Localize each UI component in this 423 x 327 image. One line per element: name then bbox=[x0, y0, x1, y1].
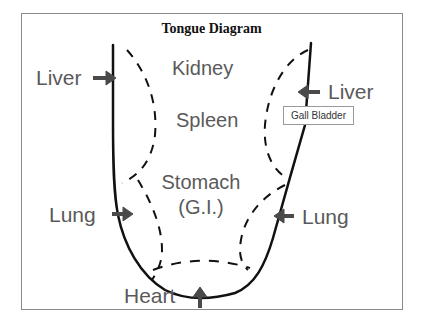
label-lung-left: Lung bbox=[49, 203, 96, 227]
zone-stomach: Stomach bbox=[153, 171, 249, 194]
tongue-outline-graphic bbox=[0, 0, 423, 327]
gall-bladder-callout: Gall Bladder bbox=[283, 106, 354, 125]
lung-left-arrow-icon bbox=[112, 207, 133, 221]
liver-left-zone-boundary bbox=[122, 50, 155, 183]
heart-arrow-icon bbox=[193, 287, 207, 308]
heart-zone-boundary bbox=[153, 261, 250, 270]
zone-spleen: Spleen bbox=[176, 109, 238, 132]
label-heart: Heart bbox=[124, 284, 175, 308]
label-lung-right: Lung bbox=[302, 205, 349, 229]
stomach-zone-left-boundary bbox=[138, 180, 162, 280]
zone-stomach-gi: (G.I.) bbox=[153, 196, 249, 219]
zone-kidney: Kidney bbox=[172, 57, 233, 80]
label-liver-right: Liver bbox=[328, 80, 374, 104]
label-liver-left: Liver bbox=[36, 66, 82, 90]
